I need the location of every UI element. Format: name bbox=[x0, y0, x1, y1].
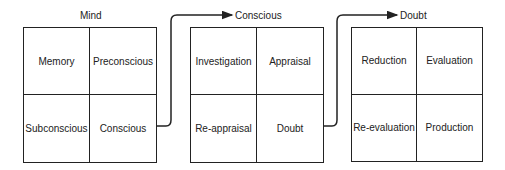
cell-appraisal: Appraisal bbox=[257, 28, 323, 95]
mind-title: Mind bbox=[80, 10, 102, 21]
cell-conscious: Conscious bbox=[90, 95, 156, 162]
cell-production: Production bbox=[417, 95, 482, 162]
cell-memory: Memory bbox=[24, 28, 90, 95]
mind-box: Memory Preconscious Subconscious Conscio… bbox=[23, 27, 157, 163]
cell-subconscious: Subconscious bbox=[24, 95, 90, 162]
conscious-box: Investigation Appraisal Re-appraisal Dou… bbox=[190, 27, 324, 163]
cell-preconscious: Preconscious bbox=[90, 28, 156, 95]
cell-evaluation: Evaluation bbox=[417, 28, 482, 95]
conscious-title: Conscious bbox=[235, 10, 282, 21]
cell-investigation: Investigation bbox=[191, 28, 257, 95]
cell-re-appraisal: Re-appraisal bbox=[191, 95, 257, 162]
cell-reduction: Reduction bbox=[352, 28, 417, 95]
doubt-box: Reduction Evaluation Re-evaluation Produ… bbox=[351, 27, 483, 162]
doubt-title: Doubt bbox=[400, 10, 427, 21]
cell-re-evaluation: Re-evaluation bbox=[352, 95, 417, 162]
cell-doubt: Doubt bbox=[257, 95, 323, 162]
